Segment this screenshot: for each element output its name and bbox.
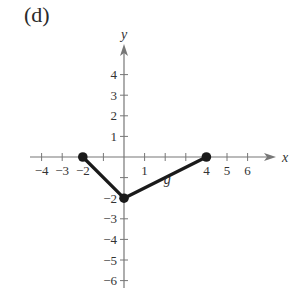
y-tick-label: 4	[111, 67, 118, 82]
endpoint-dot	[202, 152, 212, 162]
y-tick-label: 1	[111, 129, 118, 144]
x-axis-label: x	[281, 150, 289, 165]
y-tick-label: 3	[111, 88, 118, 103]
x-tick-label: 5	[224, 163, 231, 178]
y-tick-label: −4	[103, 232, 117, 247]
x-tick-label: −3	[55, 163, 69, 178]
y-tick-label: −5	[103, 253, 117, 268]
y-tick-label: 2	[111, 108, 118, 123]
endpoint-dot	[119, 193, 129, 203]
tick-labels: −4−3−214564321−2−3−4−5−6	[35, 67, 252, 288]
y-tick-label: −3	[103, 211, 117, 226]
y-tick-label: −2	[103, 191, 117, 206]
y-axis-label: y	[119, 27, 128, 42]
endpoint-dot	[78, 152, 88, 162]
x-tick-label: 1	[141, 163, 148, 178]
x-tick-label: −4	[35, 163, 49, 178]
x-tick-label: −2	[76, 163, 90, 178]
function-label-g: g	[164, 172, 171, 187]
y-tick-label: −6	[103, 273, 117, 288]
function-graph: −4−3−214564321−2−3−4−5−6 gxy	[0, 0, 308, 304]
x-tick-label: 6	[244, 163, 251, 178]
x-tick-label: 4	[203, 163, 210, 178]
